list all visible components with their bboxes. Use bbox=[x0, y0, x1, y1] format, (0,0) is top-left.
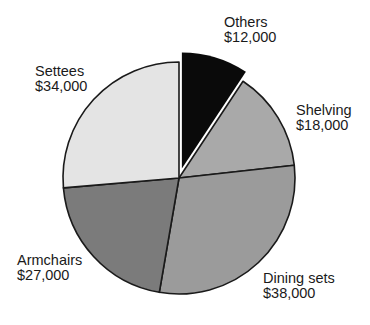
pie-slices bbox=[63, 52, 295, 294]
label-shelving-name: Shelving bbox=[296, 103, 352, 118]
label-shelving-value: $18,000 bbox=[296, 118, 352, 133]
label-others-name: Others bbox=[224, 15, 276, 30]
label-others-value: $12,000 bbox=[224, 30, 276, 45]
label-shelving: Shelving $18,000 bbox=[296, 103, 352, 133]
label-armchairs-value: $27,000 bbox=[17, 268, 82, 283]
label-armchairs: Armchairs $27,000 bbox=[17, 253, 82, 283]
label-armchairs-name: Armchairs bbox=[17, 253, 82, 268]
label-settees-value: $34,000 bbox=[35, 79, 87, 94]
label-dining-sets-name: Dining sets bbox=[263, 271, 335, 286]
label-dining-sets-value: $38,000 bbox=[263, 286, 335, 301]
label-others: Others $12,000 bbox=[224, 15, 276, 45]
label-settees: Settees $34,000 bbox=[35, 64, 87, 94]
label-dining-sets: Dining sets $38,000 bbox=[263, 271, 335, 301]
label-settees-name: Settees bbox=[35, 64, 87, 79]
